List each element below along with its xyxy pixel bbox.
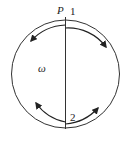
point-label: P [56,4,64,16]
top-left-arrow [31,25,66,41]
top-right-arrow [66,28,107,47]
omega-label: ω [38,62,46,74]
label-1: 1 [70,5,76,17]
bottom-left-arrow [36,103,66,122]
circle-flow-diagram: P 1 2 ω [0,0,131,143]
label-2: 2 [70,111,76,123]
